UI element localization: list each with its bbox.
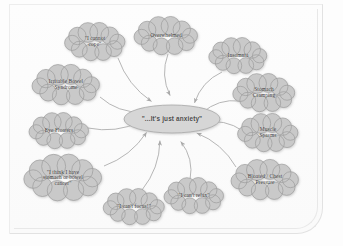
center-node [124, 105, 220, 133]
edge-to-center [195, 72, 222, 103]
cloud-node-cannot-focus[interactable] [103, 189, 164, 225]
cloud-node-cannot-cope[interactable] [65, 22, 125, 60]
cloud-node-muscle-spasms[interactable] [238, 113, 298, 151]
cloud-node-stomach-or-bowel-cancer[interactable] [24, 154, 102, 201]
diagram-canvas: "I cannotcope"OverwhelmedInsomniaStomach… [0, 0, 343, 246]
edge-to-center [181, 142, 191, 180]
edge-to-center [142, 141, 160, 190]
edge-to-center [197, 133, 236, 167]
cloud-node-insomnia[interactable] [209, 38, 267, 74]
diagram-graphics [0, 0, 343, 246]
cloud-node-bloated-chest-pressure[interactable] [231, 159, 298, 199]
cloud-node-cannot-relax[interactable] [164, 178, 223, 214]
cloud-node-eye-floaters[interactable] [29, 113, 88, 149]
cloud-node-overwhelmed[interactable] [134, 16, 197, 54]
cloud-node-stomach-cramping[interactable] [233, 73, 295, 111]
center-ellipse[interactable] [124, 105, 220, 133]
edge-to-center [118, 58, 151, 101]
cloud-node-irritable-bowel-syndrome[interactable] [32, 64, 99, 104]
edge-to-center [164, 54, 170, 96]
edge-to-center [104, 132, 147, 166]
